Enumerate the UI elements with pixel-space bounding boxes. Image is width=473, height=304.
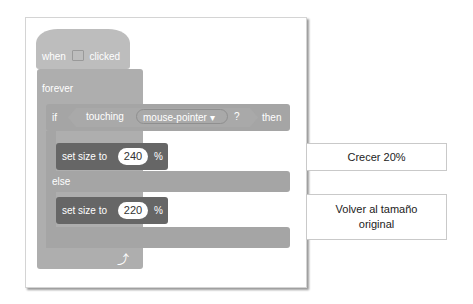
touching-label: touching	[86, 111, 124, 122]
set-size-label: set size to	[62, 205, 107, 216]
sprite-dropdown[interactable]: mouse-pointer ▾	[136, 109, 228, 124]
forever-label: forever	[42, 83, 73, 94]
else-label: else	[52, 176, 70, 187]
set-size-label: set size to	[62, 151, 107, 162]
percent-label: %	[154, 151, 163, 162]
size-input[interactable]: 240	[118, 148, 148, 165]
loop-arrow-icon: ⤴	[117, 250, 129, 267]
if-else-end	[46, 227, 290, 248]
green-flag-icon	[72, 50, 84, 61]
percent-label: %	[154, 205, 163, 216]
then-label: then	[262, 112, 281, 123]
if-label: if	[52, 112, 57, 123]
touching-condition[interactable]: touching mouse-pointer ▾ ?	[68, 108, 258, 127]
size-input[interactable]: 220	[118, 202, 148, 219]
when-label: when	[42, 51, 66, 62]
set-size-block-2[interactable]: set size to 220 %	[56, 197, 168, 224]
else-section: else	[46, 171, 290, 192]
if-else-block[interactable]: if touching mouse-pointer ▾ ? then	[46, 104, 290, 131]
set-size-block-1[interactable]: set size to 240 %	[56, 143, 168, 170]
when-flag-clicked-block[interactable]: when clicked	[36, 29, 130, 69]
question-label: ?	[234, 111, 240, 122]
chevron-down-icon: ▾	[210, 112, 215, 123]
annotation-grow: Crecer 20%	[306, 143, 447, 171]
clicked-label: clicked	[89, 51, 120, 62]
annotation-restore-size: Volver al tamaño original	[306, 194, 447, 240]
